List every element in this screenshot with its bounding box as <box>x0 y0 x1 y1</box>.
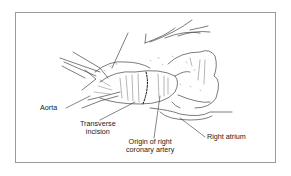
label-right-atrium: Right atrium <box>207 133 246 141</box>
label-rca-origin-line2: coronary artery <box>126 146 174 154</box>
tissue-texture <box>104 56 201 91</box>
retractor-instrument-lines <box>60 52 108 90</box>
aorta-shape <box>82 62 178 108</box>
transverse-incision-line <box>143 72 147 104</box>
label-transverse-incision: Transverse incision <box>80 120 116 136</box>
upper-tissue-lines <box>112 20 210 68</box>
heart-mass <box>150 51 232 120</box>
label-transverse-incision-line2: incision <box>80 128 116 136</box>
label-aorta: Aorta <box>40 104 57 112</box>
label-rca-origin: Origin of right coronary artery <box>126 138 174 154</box>
